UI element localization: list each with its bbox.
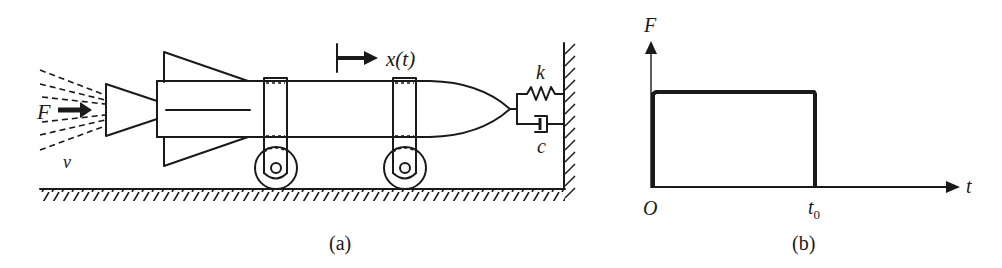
- displacement-arrow: [337, 44, 378, 72]
- velocity-label: v: [63, 152, 71, 172]
- nozzle: [106, 84, 157, 136]
- nose-cone: [430, 81, 510, 137]
- displacement-label: x(t): [385, 47, 415, 71]
- pulse-line: [653, 92, 815, 187]
- y-axis-label: F: [643, 14, 657, 36]
- panel-a-rocket-sled: F v: [36, 43, 575, 255]
- top-fin: [164, 52, 248, 82]
- front-wheel: [255, 147, 297, 189]
- x-axis-label: t: [966, 175, 972, 197]
- force-label: F: [36, 99, 51, 124]
- caption-b: (b): [792, 232, 815, 255]
- force-arrow: [58, 102, 92, 118]
- rocket-body: [157, 81, 510, 137]
- caption-a: (a): [329, 232, 351, 255]
- wall: [564, 43, 575, 198]
- x-axis-arrow-icon: [946, 181, 960, 193]
- t0-label: t0: [808, 196, 820, 222]
- bottom-fin: [164, 137, 248, 166]
- damper: [517, 116, 564, 132]
- figure: F v: [0, 0, 1002, 268]
- rear-wheel: [384, 147, 426, 189]
- ground: [40, 189, 565, 201]
- origin-label: O: [643, 197, 657, 219]
- spring-damper: [510, 87, 564, 132]
- y-axis-arrow-icon: [645, 41, 657, 54]
- spring-label: k: [536, 61, 546, 83]
- panel-b-force-pulse-chart: F t O t0 (b): [643, 14, 972, 255]
- spring: [517, 87, 564, 100]
- damper-label: c: [537, 135, 546, 157]
